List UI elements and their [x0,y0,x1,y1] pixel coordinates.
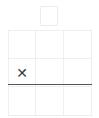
game-board: ✕ [8,30,92,116]
board-cell-r0c1[interactable] [36,31,63,59]
held-tile[interactable] [40,6,58,26]
cell-mark-r1c0: ✕ [9,66,35,80]
board-cell-r1c0[interactable]: ✕ [9,59,36,87]
board-cell-r0c0[interactable] [9,31,36,59]
board-cell-r2c1[interactable] [36,87,63,115]
strike-line [8,84,92,85]
board-grid: ✕ [9,31,91,115]
board-cell-r2c0[interactable] [9,87,36,115]
held-tile-mark [41,7,57,25]
board-cell-r1c2[interactable] [64,59,91,87]
tic-tac-toe-app: ✕ [0,0,99,118]
board-cell-r2c2[interactable] [64,87,91,115]
board-cell-r0c2[interactable] [64,31,91,59]
board-cell-r1c1[interactable] [36,59,63,87]
